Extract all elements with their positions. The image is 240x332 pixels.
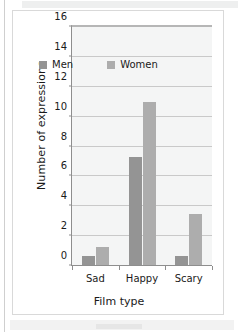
page-edge-artifact: [4, 0, 5, 332]
legend-item-men: Men: [39, 59, 73, 70]
x-tick-label-sad: Sad: [86, 273, 105, 284]
x-axis-title: Film type: [13, 295, 225, 308]
x-axis-line: [72, 265, 212, 266]
figure-card: Number of expressions 0246810121416 SadH…: [12, 10, 224, 315]
bar-happy-women: [143, 102, 156, 266]
y-tick-label: 8: [61, 130, 67, 141]
x-tick-label-scary: Scary: [175, 273, 203, 284]
y-tick-label: 0: [61, 250, 67, 261]
y-tick-label: 16: [54, 11, 67, 22]
y-tick-label: 4: [61, 190, 67, 201]
x-tick-label-happy: Happy: [126, 273, 158, 284]
bar-scary-women: [189, 214, 202, 266]
x-tick-mark: [165, 266, 166, 270]
x-tick-mark: [72, 266, 73, 270]
bar-happy-men: [129, 157, 142, 266]
legend-label: Men: [52, 59, 73, 70]
chart-legend: MenWomen: [39, 59, 158, 70]
page-top-artifact: [22, 1, 238, 8]
bar-chart: Number of expressions 0246810121416 SadH…: [13, 11, 225, 316]
y-tick-label: 2: [61, 220, 67, 231]
x-tick-mark: [119, 266, 120, 270]
legend-item-women: Women: [107, 59, 158, 70]
bar-sad-women: [96, 247, 109, 266]
legend-label: Women: [120, 59, 158, 70]
legend-swatch-men-icon: [39, 61, 47, 69]
y-tick-label: 12: [54, 70, 67, 81]
x-tick-mark: [212, 266, 213, 270]
y-tick-label: 14: [54, 40, 67, 51]
legend-swatch-women-icon: [107, 61, 115, 69]
y-tick-label: 10: [54, 100, 67, 111]
page-bottom-mark-artifact: [96, 324, 142, 329]
y-tick-label: 6: [61, 160, 67, 171]
